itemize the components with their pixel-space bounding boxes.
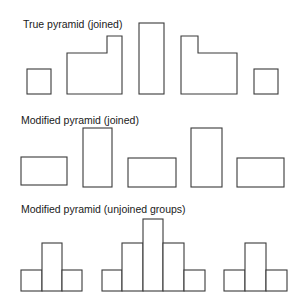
section-modified-pyramid-unjoined-groups [21, 219, 287, 291]
modified-pyramid-unjoined-groups-block-3 [62, 270, 82, 291]
modified-pyramid-joined-block-4 [191, 128, 222, 187]
modified-pyramid-unjoined-groups-block-6 [143, 219, 163, 291]
true-pyramid-joined-block-3 [139, 23, 164, 94]
modified-pyramid-unjoined-groups-block-8 [184, 270, 205, 291]
true-pyramid-joined-block-2 [67, 36, 122, 94]
modified-pyramid-unjoined-groups-block-11 [266, 270, 287, 291]
modified-pyramid-unjoined-groups-block-4 [102, 270, 122, 291]
modified-pyramid-unjoined-groups-block-10 [245, 243, 266, 291]
true-pyramid-joined-block-1 [27, 69, 51, 94]
modified-pyramid-joined-block-2 [83, 128, 112, 187]
modified-pyramid-unjoined-groups-block-5 [122, 243, 143, 291]
true-pyramid-joined-block-5 [254, 69, 278, 94]
modified-pyramid-unjoined-groups-block-1 [21, 270, 42, 291]
modified-pyramid-unjoined-groups-block-2 [42, 243, 62, 291]
modified-pyramid-joined-block-3 [128, 158, 176, 187]
modified-pyramid-joined-block-5 [237, 158, 284, 187]
section-true-pyramid-joined [27, 23, 278, 94]
section-modified-pyramid-joined [21, 128, 284, 187]
modified-pyramid-joined-block-1 [21, 157, 67, 185]
modified-pyramid-unjoined-groups-block-7 [163, 243, 184, 291]
true-pyramid-joined-block-4 [181, 36, 237, 94]
modified-pyramid-unjoined-groups-block-9 [224, 270, 245, 291]
pyramid-diagrams [0, 0, 307, 308]
